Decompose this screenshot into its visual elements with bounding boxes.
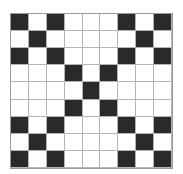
empty-cell [100, 151, 118, 168]
filled-cell [11, 151, 29, 168]
empty-cell [154, 100, 172, 117]
filled-cell [136, 134, 154, 151]
empty-cell [83, 31, 101, 48]
filled-cell [118, 48, 136, 65]
empty-cell [29, 65, 47, 82]
filled-cell [47, 14, 65, 31]
filled-cell [11, 117, 29, 134]
empty-cell [47, 31, 65, 48]
empty-cell [136, 100, 154, 117]
filled-cell [11, 48, 29, 65]
empty-cell [100, 48, 118, 65]
filled-cell [118, 14, 136, 31]
empty-cell [118, 82, 136, 99]
filled-cell [154, 117, 172, 134]
filled-cell [83, 82, 101, 99]
empty-cell [11, 100, 29, 117]
empty-cell [136, 14, 154, 31]
empty-cell [65, 31, 83, 48]
empty-cell [83, 48, 101, 65]
empty-cell [47, 100, 65, 117]
empty-cell [100, 134, 118, 151]
empty-cell [65, 151, 83, 168]
empty-cell [118, 65, 136, 82]
empty-cell [11, 31, 29, 48]
empty-cell [47, 134, 65, 151]
empty-cell [65, 14, 83, 31]
filled-cell [118, 151, 136, 168]
empty-cell [154, 134, 172, 151]
empty-cell [100, 14, 118, 31]
filled-cell [47, 48, 65, 65]
empty-cell [83, 14, 101, 31]
filled-cell [136, 31, 154, 48]
empty-cell [65, 134, 83, 151]
filled-cell [11, 14, 29, 31]
filled-cell [65, 65, 83, 82]
empty-cell [83, 151, 101, 168]
empty-cell [65, 48, 83, 65]
empty-cell [11, 82, 29, 99]
filled-cell [154, 151, 172, 168]
empty-cell [29, 117, 47, 134]
empty-cell [154, 65, 172, 82]
filled-cell [100, 65, 118, 82]
filled-cell [29, 31, 47, 48]
empty-cell [136, 48, 154, 65]
empty-cell [11, 65, 29, 82]
empty-cell [11, 134, 29, 151]
empty-cell [154, 82, 172, 99]
filled-cell [47, 117, 65, 134]
empty-cell [65, 117, 83, 134]
filled-cell [47, 151, 65, 168]
empty-cell [29, 14, 47, 31]
empty-cell [83, 134, 101, 151]
empty-cell [47, 82, 65, 99]
empty-cell [118, 100, 136, 117]
empty-cell [83, 65, 101, 82]
empty-cell [29, 151, 47, 168]
empty-cell [83, 117, 101, 134]
empty-cell [118, 31, 136, 48]
empty-cell [29, 82, 47, 99]
empty-cell [29, 100, 47, 117]
empty-cell [83, 100, 101, 117]
filled-cell [154, 48, 172, 65]
filled-cell [100, 100, 118, 117]
empty-cell [136, 117, 154, 134]
empty-cell [29, 48, 47, 65]
empty-cell [136, 65, 154, 82]
pattern-grid [10, 13, 173, 169]
filled-cell [29, 134, 47, 151]
empty-cell [100, 31, 118, 48]
filled-cell [154, 14, 172, 31]
empty-cell [154, 31, 172, 48]
empty-cell [118, 134, 136, 151]
filled-cell [65, 100, 83, 117]
empty-cell [100, 117, 118, 134]
empty-cell [100, 82, 118, 99]
empty-cell [65, 82, 83, 99]
empty-cell [47, 65, 65, 82]
empty-cell [136, 82, 154, 99]
filled-cell [118, 117, 136, 134]
empty-cell [136, 151, 154, 168]
